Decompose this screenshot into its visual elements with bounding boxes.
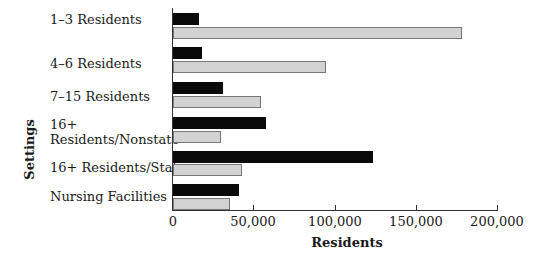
category-label-16-nonstate-line2: Residents/Nonstate	[50, 132, 179, 147]
x-tick-50000	[253, 205, 254, 210]
x-tick-label-150000: 150,000	[389, 214, 443, 229]
bar-16-state-series1	[173, 151, 373, 163]
x-tick-100000	[335, 205, 336, 210]
bar-16-state-series2	[173, 164, 242, 176]
x-axis-label: Residents	[311, 235, 382, 250]
bar-7-15-series2	[173, 96, 261, 108]
category-label-16-nonstate-line1: 16+	[50, 117, 77, 132]
x-tick-label-50000: 50,000	[230, 214, 276, 229]
category-label-7-15: 7–15 Residents	[50, 89, 150, 104]
bar-4-6-series2	[173, 61, 326, 73]
y-axis-label: Settings	[22, 110, 37, 190]
y-axis-line	[172, 8, 173, 211]
x-tick-200000	[497, 205, 498, 210]
category-label-16-state: 16+ Residents/State	[50, 160, 185, 175]
category-label-nursing: Nursing Facilities	[50, 189, 167, 204]
x-tick-label-100000: 100,000	[308, 214, 362, 229]
bar-1-3-series1	[173, 13, 199, 25]
bar-7-15-series1	[173, 82, 223, 94]
category-label-1-3: 1–3 Residents	[50, 12, 142, 27]
bar-16-nonstate-series1	[173, 117, 266, 129]
bar-nursing-series1	[173, 184, 239, 196]
category-label-4-6: 4–6 Residents	[50, 56, 142, 71]
bar-nursing-series2	[173, 198, 230, 210]
x-tick-label-0: 0	[169, 214, 177, 229]
bar-1-3-series2	[173, 27, 462, 39]
x-tick-label-200000: 200,000	[470, 214, 524, 229]
x-tick-150000	[416, 205, 417, 210]
bar-4-6-series1	[173, 47, 202, 59]
x-axis-line	[172, 210, 498, 211]
bar-16-nonstate-series2	[173, 131, 221, 143]
